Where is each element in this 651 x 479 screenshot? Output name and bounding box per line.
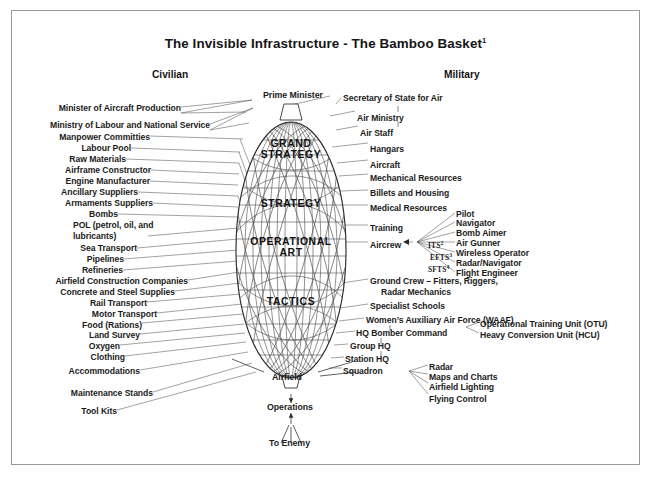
civilian-item-maintenance-stands: Maintenance Stands: [21, 388, 153, 399]
aircrew-branch-radar-navigator: Radar/Navigator: [456, 258, 522, 269]
page-title-text: The Invisible Infrastructure - The Bambo…: [165, 36, 482, 51]
aircrew-abbr-sfts-text: SFTS: [428, 265, 446, 274]
civilian-item-land-survey: Land Survey: [21, 330, 140, 341]
column-header-military: Military: [444, 69, 480, 80]
civilian-item-clothing: Clothing: [21, 352, 125, 363]
squadron-branch-maps-and-charts: Maps and Charts: [429, 372, 498, 383]
civilian-item-sea-transport: Sea Transport: [21, 243, 137, 254]
page-title-footnote: 1: [482, 36, 486, 45]
military-item-medical-resources: Medical Resources: [370, 203, 447, 214]
squadron-branch-flying-control: Flying Control: [429, 394, 487, 405]
civilian-item-motor-transport: Motor Transport: [21, 309, 157, 320]
bomber-branch-hcu: Heavy Conversion Unit (HCU): [480, 330, 599, 341]
civilian-item-raw-materials: Raw Materials: [21, 154, 126, 165]
military-item-ground-crew-line2: Radar Mechanics: [381, 287, 451, 298]
military-item-mechanical-resources: Mechanical Resources: [370, 173, 462, 184]
civilian-item-refineries: Refineries: [21, 265, 123, 276]
civilian-item-food-rations: Food (Rations): [21, 320, 142, 331]
civilian-item-airfield-construction-companies: Airfield Construction Companies: [21, 276, 188, 287]
civilian-item-oxygen: Oxygen: [21, 341, 120, 352]
aircrew-abbr-its: ITS2: [428, 240, 444, 250]
aircrew-branch-navigator: Navigator: [456, 218, 495, 229]
military-item-group-hq: Group HQ: [350, 341, 391, 352]
military-item-aircraft: Aircraft: [370, 160, 400, 171]
civilian-item-rail-transport: Rail Transport: [21, 298, 147, 309]
military-item-air-ministry: Air Ministry: [357, 113, 404, 124]
military-item-squadron: Squadron: [343, 366, 383, 377]
basket-band-grand-strategy: GRAND STRATEGY: [241, 138, 341, 160]
military-item-hangars: Hangars: [370, 144, 404, 155]
aircrew-abbr-sfts-footnote: 4: [446, 264, 449, 270]
basket-band-operational-art-line2: ART: [235, 247, 347, 258]
aircrew-abbr-its-footnote: 2: [441, 240, 444, 246]
bomber-branch-otu: Operational Training Unit (OTU): [480, 319, 607, 330]
aircrew-branch-air-gunner: Air Gunner: [456, 238, 500, 249]
aircrew-abbr-efts-text: EFTS: [430, 253, 449, 262]
military-item-aircrew: Aircrew: [370, 240, 401, 251]
civilian-item-bombs: Bombs: [21, 209, 118, 220]
civilian-item-pipelines: Pipelines: [21, 254, 124, 265]
civilian-item-manpower-committies: Manpower Committies: [21, 132, 150, 143]
basket-band-strategy: STRATEGY: [241, 198, 341, 209]
basket-band-operational-art-line1: OPERATIONAL: [235, 236, 347, 247]
civilian-item-labour-pool: Labour Pool: [21, 143, 131, 154]
civilian-item-accommodations: Accommodations: [21, 366, 140, 377]
aircrew-abbr-efts: EFTS3: [430, 252, 452, 262]
page-title: The Invisible Infrastructure - The Bambo…: [0, 36, 651, 51]
aircrew-branch-wireless-operator: Wireless Operator: [456, 248, 529, 259]
military-item-billets-and-housing: Billets and Housing: [370, 188, 449, 199]
squadron-branch-airfield-lighting: Airfield Lighting: [429, 382, 494, 393]
node-prime-minister: Prime Minister: [263, 90, 323, 101]
military-item-air-staff: Air Staff: [360, 128, 393, 139]
node-operations: Operations: [267, 402, 313, 413]
civilian-item-armaments-suppliers: Armaments Suppliers: [21, 198, 153, 209]
diagram-page: The Invisible Infrastructure - The Bambo…: [0, 0, 651, 479]
basket-band-grand-strategy-line1: GRAND: [241, 138, 341, 149]
military-item-station-hq: Station HQ: [345, 354, 389, 365]
civilian-item-ministry-of-labour: Ministry of Labour and National Service: [21, 120, 210, 131]
aircrew-branch-flight-engineer: Flight Engineer: [456, 268, 518, 279]
military-item-training: Training: [370, 223, 403, 234]
squadron-branch-radar: Radar: [429, 362, 453, 373]
military-item-hq-bomber-command: HQ Bomber Command: [356, 328, 447, 339]
civilian-item-tool-kits: Tool Kits: [21, 406, 117, 417]
basket-band-grand-strategy-line2: STRATEGY: [241, 149, 341, 160]
aircrew-abbr-sfts: SFTS4: [428, 264, 449, 274]
civilian-item-engine-manufacturer: Engine Manufacturer: [21, 176, 150, 187]
node-airfield: Airfield: [272, 372, 302, 383]
aircrew-branch-bomb-aimer: Bomb Aimer: [456, 228, 506, 239]
military-item-specialist-schools: Specialist Schools: [370, 301, 445, 312]
civilian-item-ancillary-suppliers: Ancillary Suppliers: [21, 187, 138, 198]
military-item-secretary-of-state-for-air: Secretary of State for Air: [343, 93, 443, 104]
column-header-civilian: Civilian: [152, 69, 188, 80]
civilian-item-minister-of-aircraft-production: Minister of Aircraft Production: [21, 103, 181, 114]
node-to-enemy: To Enemy: [269, 438, 310, 449]
basket-band-tactics: TACTICS: [241, 296, 341, 307]
civilian-item-airframe-constructor: Airframe Constructor: [21, 165, 151, 176]
civilian-item-pol-line2: lubricants): [73, 231, 116, 242]
civilian-item-concrete-and-steel-supplies: Concrete and Steel Supplies: [21, 287, 175, 298]
basket-band-operational-art: OPERATIONAL ART: [235, 236, 347, 258]
aircrew-abbr-its-text: ITS: [428, 241, 441, 250]
civilian-item-pol-line1: POL (petrol, oil, and: [73, 220, 153, 231]
aircrew-abbr-efts-footnote: 3: [449, 252, 452, 258]
